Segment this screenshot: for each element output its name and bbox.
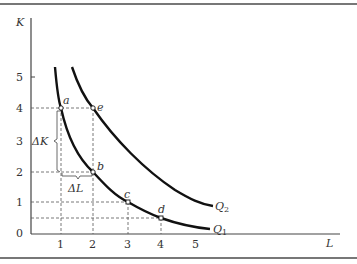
guide-lines: [31, 108, 161, 234]
x-tick-5: 5: [192, 238, 199, 251]
point-a-label: a: [63, 94, 70, 107]
delta-k-label: ΔK: [31, 135, 49, 148]
q1-label: Q1: [213, 223, 227, 237]
delta-l-label: ΔL: [67, 182, 83, 195]
y-axis-label: K: [15, 16, 25, 29]
delta-k-brace: [54, 111, 60, 172]
y-tick-5: 5: [16, 71, 23, 84]
y-tick-3: 3: [16, 135, 23, 148]
point-d-label: d: [158, 203, 165, 216]
delta-l-brace: [62, 173, 92, 179]
isoquant-diagram: K L 5 4 3 2 1 0 1 2 3 4 5 ΔK ΔL a e b c …: [0, 0, 357, 264]
x-axis-label: L: [325, 237, 333, 250]
x-tick-3: 3: [124, 238, 131, 251]
x-tick-4: 4: [157, 238, 164, 251]
y-tick-2: 2: [16, 166, 23, 179]
point-e-label: e: [97, 101, 104, 114]
q2-label: Q2: [215, 200, 229, 214]
y-tick-4: 4: [16, 102, 23, 115]
x-tick-1: 1: [57, 238, 64, 251]
y-tick-0: 0: [16, 227, 23, 240]
x-tick-2: 2: [89, 238, 96, 251]
point-c-label: c: [124, 188, 130, 201]
y-tick-1: 1: [16, 196, 23, 209]
point-b-label: b: [97, 160, 104, 173]
isoquant-q1: [55, 67, 210, 229]
curve-points: [59, 106, 163, 220]
